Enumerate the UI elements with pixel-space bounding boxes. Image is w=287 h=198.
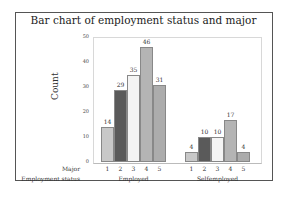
y-tick-label: 50: [75, 33, 89, 39]
bar: [198, 137, 211, 162]
bar: [224, 120, 237, 163]
group-label: Selfemployed: [180, 175, 255, 182]
major-tick-label: 3: [211, 165, 224, 172]
major-tick-label: 2: [198, 165, 211, 172]
group-label: Employed: [96, 175, 171, 182]
chart-title: Bar chart of employment status and major: [0, 14, 287, 26]
y-tick-label: 20: [75, 108, 89, 114]
major-tick-label: 2: [114, 165, 127, 172]
group-row-label: Employment status: [10, 175, 80, 182]
major-tick-label: 4: [140, 165, 153, 172]
bar-value-label: 17: [224, 111, 238, 118]
bar-value-label: 10: [198, 128, 212, 135]
bar-value-label: 35: [127, 66, 141, 73]
major-tick-label: 3: [127, 165, 140, 172]
major-tick-label: 5: [237, 165, 250, 172]
major-tick-label: 1: [185, 165, 198, 172]
bar-value-label: 10: [211, 128, 225, 135]
bar: [101, 127, 114, 162]
y-axis-label: Count: [50, 72, 60, 100]
y-tick-label: 10: [75, 133, 89, 139]
bar: [153, 85, 166, 163]
bar: [211, 137, 224, 162]
major-tick-label: 1: [101, 165, 114, 172]
y-tick-label: 40: [75, 58, 89, 64]
bar: [127, 75, 140, 163]
bar-value-label: 46: [140, 38, 154, 45]
bar: [114, 90, 127, 163]
major-tick-label: 4: [224, 165, 237, 172]
bar-value-label: 29: [114, 81, 128, 88]
bar-value-label: 14: [101, 118, 115, 125]
bar-value-label: 31: [153, 76, 167, 83]
bar: [140, 47, 153, 162]
y-tick-label: 0: [75, 158, 89, 164]
y-tick-label: 30: [75, 83, 89, 89]
bar-value-label: 4: [185, 143, 199, 150]
bar-value-label: 4: [237, 143, 251, 150]
bar: [237, 152, 250, 162]
bar: [185, 152, 198, 162]
major-tick-label: 5: [153, 165, 166, 172]
major-row-label: Major: [30, 165, 80, 172]
